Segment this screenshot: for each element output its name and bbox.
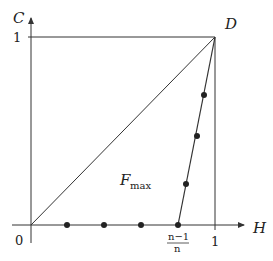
diagonal-line [31, 37, 215, 225]
diagram-canvas: C 1 D 0 H 1 n−1 n F max [0, 0, 273, 261]
fmax-subscript: max [130, 180, 151, 191]
y-axis-label: C [13, 9, 25, 27]
fmax-boundary-line [178, 37, 215, 225]
fraction-denominator: n [174, 243, 181, 254]
x-axis-label: H [252, 219, 267, 237]
point-d-label: D [224, 15, 237, 33]
y-tick-label: 1 [13, 30, 21, 45]
line-dot [194, 133, 200, 139]
x-tick-label: 1 [211, 234, 219, 249]
line-dot [183, 181, 189, 187]
origin-label: 0 [15, 233, 23, 248]
axis-dot [138, 222, 144, 228]
axis-dot [175, 222, 181, 228]
axis-dot [64, 222, 70, 228]
axis-dot [101, 222, 107, 228]
fraction-numerator: n−1 [168, 231, 189, 242]
line-dot [201, 92, 207, 98]
